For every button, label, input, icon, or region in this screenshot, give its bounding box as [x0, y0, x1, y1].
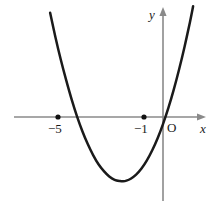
x-axis-label: x — [200, 122, 206, 135]
marked-point-neg1 — [141, 114, 146, 119]
x-axis-arrowhead — [197, 113, 206, 120]
marked-point-neg5 — [55, 114, 60, 119]
origin-label: O — [167, 121, 176, 134]
y-axis-arrowhead — [159, 7, 166, 16]
parabola-figure: x y O −5 −1 — [0, 0, 218, 201]
x-tick-label-neg5: −5 — [48, 122, 62, 135]
coordinate-plot — [0, 0, 218, 201]
y-axis-label: y — [149, 8, 155, 21]
parabola-curve — [50, 6, 193, 181]
x-tick-label-neg1: −1 — [134, 122, 148, 135]
